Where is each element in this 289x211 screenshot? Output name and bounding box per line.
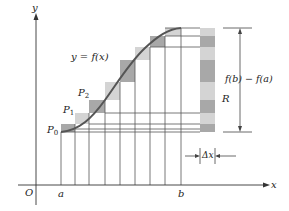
delta-x-label: Δx	[202, 151, 214, 160]
x-axis-label: x	[271, 180, 277, 190]
arrow-left-icon	[215, 154, 220, 158]
x-axis-arrow-icon	[263, 183, 270, 188]
origin-label: O	[25, 188, 33, 198]
point-p1-label: P1	[63, 105, 74, 117]
b-label: b	[178, 189, 184, 199]
point-subscript: 2	[85, 92, 89, 100]
point-name: P	[47, 124, 54, 135]
point-subscript: 0	[54, 129, 58, 137]
point-name: P	[78, 87, 85, 98]
point-p0-label: P0	[47, 125, 58, 137]
region-label: R	[222, 94, 230, 104]
axes	[18, 13, 270, 205]
a-label: a	[58, 189, 64, 199]
arrow-down-icon	[238, 126, 242, 132]
point-subscript: 1	[70, 109, 74, 117]
point-p2-label: P2	[78, 88, 89, 100]
diagram-canvas	[0, 0, 289, 211]
arrow-up-icon	[238, 28, 242, 34]
y-axis-arrow-icon	[34, 13, 39, 20]
difference-label: f(b) − f(a)	[225, 74, 273, 84]
point-name: P	[63, 104, 70, 115]
y-axis-label: y	[32, 3, 38, 13]
riemann-stack-diagram: y x O a b y = f(x) P0 P1 P2 f(b) − f(a) …	[0, 0, 289, 211]
stacked-column-R	[200, 28, 215, 132]
curve-label: y = f(x)	[71, 52, 109, 62]
arrow-right-icon	[195, 154, 200, 158]
subinterval-rectangles	[61, 28, 181, 132]
